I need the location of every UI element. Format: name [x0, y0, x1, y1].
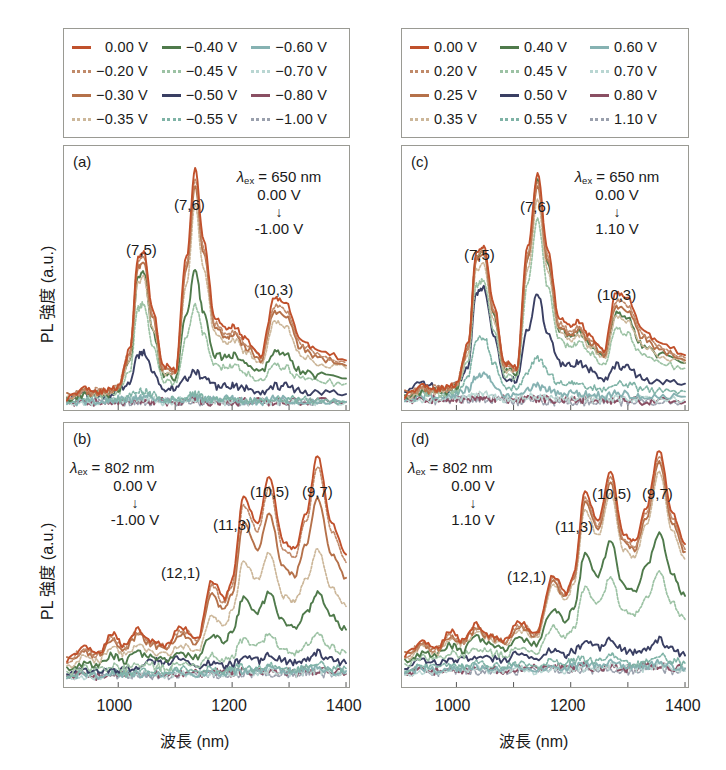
legend-swatch-solid-icon: [162, 94, 181, 97]
spectrum-line: [405, 532, 685, 662]
legend-item[interactable]: 0.35 V: [410, 111, 500, 127]
legend-item[interactable]: −0.45 V: [162, 63, 252, 79]
x-axis-title: 波長 (nm): [160, 728, 229, 752]
legend-item[interactable]: −0.60 V: [251, 39, 341, 55]
legend-item[interactable]: 0.80 V: [590, 87, 680, 103]
lambda-symbol-a: λ: [237, 168, 244, 185]
peak-label: (12,1): [161, 564, 200, 581]
legend-swatch-solid-icon: [410, 46, 429, 49]
plot-panel-b: (b) λex = 802 nm 0.00 V ↓ -1.00 V (12,1)…: [63, 422, 350, 688]
legend-swatch-solid-icon: [251, 46, 270, 49]
legend-swatch-dotted-icon: [410, 118, 429, 121]
legend-item[interactable]: −0.50 V: [162, 87, 252, 103]
excitation-value-a: = 650 nm: [258, 168, 321, 185]
legend-item[interactable]: 0.70 V: [590, 63, 680, 79]
legend-label: 0.80 V: [614, 87, 657, 103]
legend-item[interactable]: −0.35 V: [72, 111, 162, 127]
x-tick-label: 1000: [435, 697, 471, 715]
peak-label: (7,6): [520, 198, 551, 215]
legend-item[interactable]: 0.25 V: [410, 87, 500, 103]
legend-label: 0.50 V: [524, 87, 567, 103]
legend-label: −0.40 V: [186, 39, 238, 55]
legend-item[interactable]: 0.20 V: [410, 63, 500, 79]
voltage-end-c: 1.10 V: [552, 220, 682, 238]
peak-label: (10,3): [254, 281, 293, 298]
excitation-value-b: = 802 nm: [92, 459, 155, 476]
legend-item[interactable]: −0.70 V: [251, 63, 341, 79]
legend-item[interactable]: 0.00 V: [410, 39, 500, 55]
legend-label: −0.50 V: [186, 87, 238, 103]
legend-label: 0.00 V: [434, 39, 477, 55]
legend-swatch-dotted-icon: [500, 70, 519, 73]
panel-conditions-c: λex = 650 nm 0.00 V ↓ 1.10 V: [552, 168, 682, 238]
panel-label-b: (b): [73, 430, 91, 447]
legend-label: 0.55 V: [524, 111, 567, 127]
legend-label: −0.35 V: [96, 111, 148, 127]
legend-item[interactable]: −0.55 V: [162, 111, 252, 127]
legend-label: 0.00 V: [96, 39, 148, 55]
excitation-value-d: = 802 nm: [430, 459, 493, 476]
spectrum-line: [405, 571, 685, 667]
legend-item[interactable]: 0.00 V: [72, 39, 162, 55]
peak-label: (7,5): [464, 246, 495, 263]
legend-label: −0.55 V: [186, 111, 238, 127]
peak-label: (9,7): [642, 485, 673, 502]
legend-swatch-solid-icon: [590, 46, 609, 49]
legend-label: 0.20 V: [434, 63, 477, 79]
legend-item[interactable]: 0.60 V: [590, 39, 680, 55]
panel-conditions-d: λex = 802 nm 0.00 V ↓ 1.10 V: [408, 459, 538, 529]
legend-swatch-solid-icon: [500, 46, 519, 49]
legend-swatch-solid-icon: [590, 94, 609, 97]
legend-item[interactable]: 1.10 V: [590, 111, 680, 127]
legend-label: 1.10 V: [614, 111, 657, 127]
legend-item[interactable]: −0.40 V: [162, 39, 252, 55]
legend-swatch-dotted-icon: [590, 70, 609, 73]
figure-root: 0.00 V−0.40 V−0.60 V−0.20 V−0.45 V−0.70 …: [0, 0, 726, 770]
peak-label: (9,7): [302, 483, 333, 500]
legend-swatch-dotted-icon: [162, 118, 181, 121]
peak-label: (11,3): [213, 516, 251, 533]
panel-label-c: (c): [411, 153, 429, 170]
legend-item[interactable]: 0.55 V: [500, 111, 590, 127]
plot-panel-c: (c) λex = 650 nm 0.00 V ↓ 1.10 V (7,5)(7…: [401, 145, 689, 411]
legend-label: 0.40 V: [524, 39, 567, 55]
legend-item[interactable]: 0.45 V: [500, 63, 590, 79]
lambda-subscript-b: ex: [77, 466, 87, 477]
legend-swatch-dotted-icon: [500, 118, 519, 121]
legend-item[interactable]: −0.30 V: [72, 87, 162, 103]
y-axis-title: PL 強度 (a.u.): [34, 246, 58, 343]
peak-label: (10,5): [592, 485, 631, 502]
legend-label: −1.00 V: [275, 111, 327, 127]
legend-item[interactable]: −0.20 V: [72, 63, 162, 79]
legend-left: 0.00 V−0.40 V−0.60 V−0.20 V−0.45 V−0.70 …: [63, 28, 350, 138]
legend-swatch-solid-icon: [72, 46, 91, 49]
legend-swatch-solid-icon: [410, 94, 429, 97]
plot-panel-d: (d) λex = 802 nm 0.00 V ↓ 1.10 V (12,1)(…: [401, 422, 689, 688]
legend-swatch-dotted-icon: [590, 118, 609, 121]
legend-right: 0.00 V0.40 V0.60 V0.20 V0.45 V0.70 V0.25…: [401, 28, 689, 138]
legend-label: −0.70 V: [275, 63, 327, 79]
lambda-symbol-c: λ: [575, 168, 582, 185]
panel-conditions-a: λex = 650 nm 0.00 V ↓ -1.00 V: [214, 168, 344, 238]
legend-swatch-solid-icon: [162, 46, 181, 49]
x-tick-label: 1400: [665, 697, 701, 715]
x-tick-label: 1200: [211, 697, 247, 715]
legend-label: −0.20 V: [96, 63, 148, 79]
spectrum-line: [405, 286, 685, 392]
voltage-start-d: 0.00 V: [408, 477, 538, 495]
legend-swatch-dotted-icon: [251, 118, 270, 121]
legend-label: −0.80 V: [275, 87, 327, 103]
x-tick-label: 1400: [326, 697, 362, 715]
panel-label-d: (d): [411, 430, 429, 447]
legend-swatch-solid-icon: [500, 94, 519, 97]
legend-item[interactable]: 0.40 V: [500, 39, 590, 55]
voltage-end-a: -1.00 V: [214, 220, 344, 238]
legend-item[interactable]: −0.80 V: [251, 87, 341, 103]
x-tick-label: 1000: [97, 697, 133, 715]
peak-label: (12,1): [507, 568, 546, 585]
peak-label: (10,3): [597, 286, 636, 303]
legend-item[interactable]: 0.50 V: [500, 87, 590, 103]
lambda-subscript-a: ex: [244, 175, 254, 186]
lambda-subscript-c: ex: [582, 175, 592, 186]
legend-item[interactable]: −1.00 V: [251, 111, 341, 127]
